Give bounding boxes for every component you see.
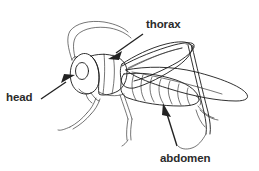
rear-claw-1 (198, 106, 214, 118)
abdomen-ridge-5 (168, 81, 172, 104)
hindleg-femur (120, 42, 192, 88)
head-arrow (41, 74, 75, 99)
palp-lower (91, 93, 99, 101)
label-group: thorax head abdomen (6, 18, 210, 164)
abdomen-arrow-shaft (167, 114, 177, 146)
label-head: head (6, 91, 33, 103)
grasshopper-illustration (58, 21, 248, 149)
abdomen-segment (121, 73, 201, 106)
foreleg-tibia (70, 113, 87, 127)
hindleg-tarsus (178, 134, 206, 149)
foreleg-femur (87, 98, 96, 113)
head-arrow-shaft (41, 82, 66, 99)
midleg-tibia (127, 119, 128, 140)
antennae-group (68, 21, 131, 62)
thorax-arrow (108, 34, 143, 60)
abdomen-arrow (162, 103, 177, 146)
foreleg (58, 98, 100, 130)
abdomen-arrow-head (162, 103, 171, 117)
midleg-tarsus (122, 140, 128, 146)
foreleg-tibia-b (73, 114, 91, 129)
foreleg-tarsus (58, 127, 70, 130)
palp-upper (86, 94, 92, 103)
hindleg-tibia (188, 45, 206, 134)
rear-claw-3 (196, 110, 205, 127)
midleg (120, 95, 132, 146)
abdomen-ridge-4 (159, 79, 163, 103)
pronotum-ridge-1 (103, 54, 105, 94)
midleg-femur (120, 95, 128, 119)
abdomen-ridge-1 (132, 74, 136, 100)
label-abdomen: abdomen (160, 152, 210, 164)
hindleg-tibia-back (192, 46, 210, 134)
diagram-canvas: thorax head abdomen (0, 0, 259, 171)
label-thorax: thorax (146, 18, 181, 30)
abdomen-ridge-7 (187, 88, 190, 105)
midleg-tibia-b (131, 119, 132, 140)
abdomen-ridge-6 (178, 84, 181, 105)
grasshopper-diagram: thorax head abdomen (0, 0, 259, 171)
hindleg-knee (186, 44, 194, 47)
pronotum-ridge-2 (112, 55, 114, 94)
